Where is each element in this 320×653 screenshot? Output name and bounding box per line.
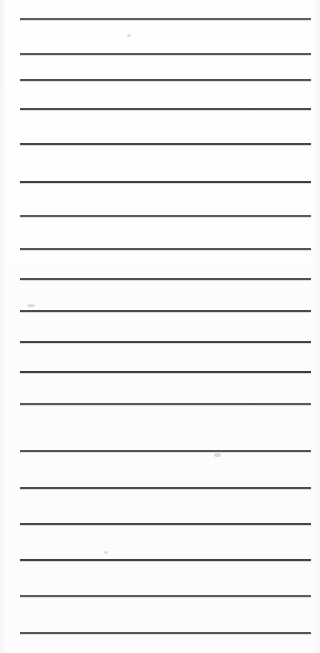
ruled-line [20,371,311,373]
ruled-line [20,310,311,312]
ruled-line [20,53,311,55]
ruled-line [20,79,311,81]
scanner-speck-upper [127,34,131,37]
ruled-line [20,248,311,250]
ruled-line [20,595,311,597]
ruled-line [20,278,311,280]
scanned-page: Lined Notepaper Scan [0,0,320,653]
ruled-line [20,487,311,489]
ruled-line [20,18,311,20]
scanner-speck-lower [104,551,108,554]
ruled-line [20,341,311,343]
paper-surface [0,0,320,653]
ruled-line [20,450,311,452]
scan-edge-right [312,0,320,653]
scan-edge-left [0,0,6,653]
ruled-line [20,632,311,634]
ruled-line [20,215,311,217]
ruled-line [20,181,311,183]
ruled-line [20,559,311,561]
ruled-line [20,143,311,145]
scanner-smudge-left [27,304,35,307]
scanner-smudge-center [214,453,221,457]
ruled-line [20,523,311,525]
ruled-line [20,403,311,405]
ruled-line [20,108,311,110]
